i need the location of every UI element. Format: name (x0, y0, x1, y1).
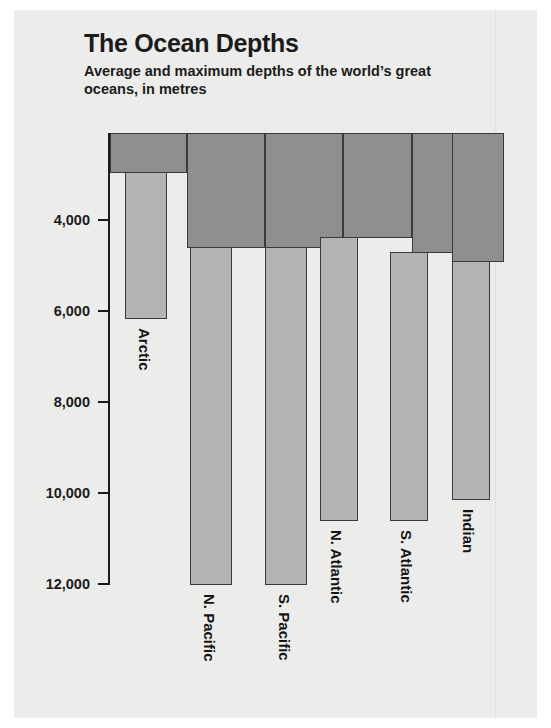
average-bar-n-pacific (187, 133, 265, 248)
maximum-bar-arctic (125, 172, 167, 319)
y-tick-8000 (98, 401, 108, 403)
plot-area: 4,000 6,000 8,000 10,000 12,000 Arctic N… (0, 0, 551, 728)
maximum-bar-n-atlantic (320, 237, 358, 521)
average-bar-arctic (110, 133, 187, 173)
maximum-bar-n-pacific (190, 247, 232, 585)
y-tick-6000 (98, 310, 108, 312)
y-tick-label-10000: 10,000 (10, 485, 90, 501)
category-label-n-atlantic: N. Atlantic (328, 530, 345, 604)
maximum-bar-indian (452, 261, 490, 500)
category-label-n-pacific: N. Pacific (201, 594, 218, 662)
y-axis-line (108, 133, 110, 585)
y-tick-12000 (98, 583, 108, 585)
maximum-bar-s-pacific (265, 247, 307, 585)
category-label-arctic: Arctic (136, 328, 153, 371)
y-tick-label-8000: 8,000 (10, 394, 90, 410)
average-bar-indian (452, 133, 504, 262)
category-label-indian: Indian (460, 509, 477, 553)
y-tick-label-6000: 6,000 (10, 303, 90, 319)
y-tick-label-12000: 12,000 (10, 576, 90, 592)
y-tick-4000 (98, 219, 108, 221)
maximum-bar-s-atlantic (390, 252, 428, 521)
average-bar-n-atlantic (343, 133, 412, 238)
category-label-s-pacific: S. Pacific (276, 594, 293, 661)
chart-page: The Ocean Depths Average and maximum dep… (0, 0, 551, 728)
y-tick-label-4000: 4,000 (10, 212, 90, 228)
category-label-s-atlantic: S. Atlantic (398, 530, 415, 603)
y-tick-10000 (98, 492, 108, 494)
average-bar-s-pacific (265, 133, 343, 248)
